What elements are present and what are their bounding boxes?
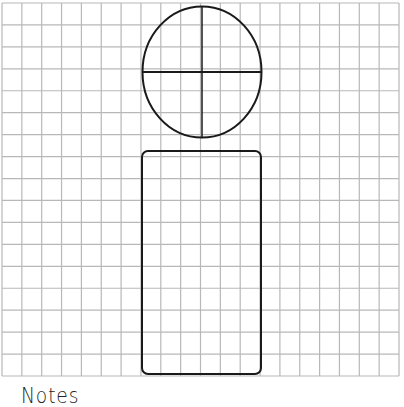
body-rectangle xyxy=(142,151,261,374)
notes-label: Notes xyxy=(21,385,79,407)
grid-paper xyxy=(2,3,399,376)
